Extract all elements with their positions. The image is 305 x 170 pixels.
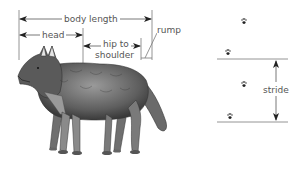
rump-label: rump bbox=[157, 25, 181, 35]
paw-print-icon bbox=[227, 113, 232, 119]
diagram-graphic bbox=[0, 0, 305, 170]
paw-print-icon bbox=[241, 18, 246, 24]
stride-label: stride bbox=[262, 84, 290, 96]
head-label: head bbox=[40, 30, 66, 40]
paw-print-icon bbox=[225, 49, 230, 55]
paw-prints bbox=[225, 18, 246, 119]
wolf-illustration bbox=[18, 46, 167, 155]
paw-print-icon bbox=[241, 81, 246, 87]
body-length-label: body length bbox=[62, 14, 120, 24]
shoulder-label-line2: shoulder bbox=[94, 50, 135, 60]
hip-to-label-line1: hip to bbox=[101, 39, 131, 49]
wolf-diagram: body length head hip to shoulder rump st… bbox=[0, 0, 305, 170]
